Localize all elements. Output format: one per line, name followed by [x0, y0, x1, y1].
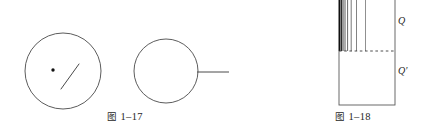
label-Q-prime: Q′: [398, 66, 407, 76]
caption-number-text: 1–17: [120, 111, 143, 122]
caption-figure-1-17: 图1–17: [0, 112, 250, 123]
figure-1-17-drawing: [0, 0, 250, 110]
caption-number-text: 1–18: [348, 111, 371, 122]
circle-center-dot: [51, 68, 54, 71]
caption-label-text: 图: [335, 111, 345, 122]
figure-1-18: Q Q′ 图1–18: [250, 0, 426, 135]
caption-figure-1-18: 图1–18: [250, 112, 426, 123]
caption-label-text: 图: [107, 111, 117, 122]
figure-sheet: 图1–17 Q Q′ 图1–18: [0, 0, 426, 135]
right-circle-outline: [134, 39, 198, 103]
vertical-hatch-lines: [340, 0, 366, 51]
radius-slash-line: [61, 64, 79, 89]
label-Q: Q: [398, 16, 405, 26]
figure-1-17: 图1–17: [0, 0, 250, 135]
left-circle-outline: [25, 33, 101, 109]
